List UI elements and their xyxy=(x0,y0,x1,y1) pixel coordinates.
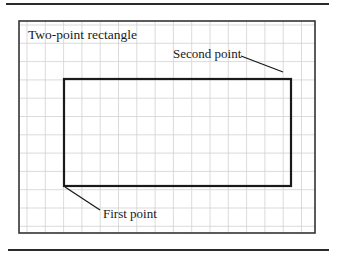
second-point-leader xyxy=(241,56,283,72)
bottom-rule xyxy=(8,249,329,251)
diagram-title: Two-point rectangle xyxy=(28,28,137,42)
second-point-label: Second point xyxy=(173,47,241,60)
first-point-leader xyxy=(65,187,100,210)
first-point-label: First point xyxy=(103,207,157,220)
two-point-rectangle xyxy=(64,79,291,186)
